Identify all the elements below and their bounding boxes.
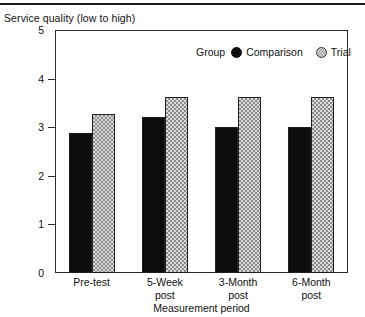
dotted-circle-icon	[316, 47, 327, 58]
bar-trial-5-week-post	[165, 97, 188, 273]
x-axis-category-label-line: post	[202, 289, 275, 302]
bars-layer	[55, 30, 348, 273]
legend-entry-comparison: Comparison	[231, 46, 303, 58]
x-axis-category-label: 5-Weekpost	[128, 276, 201, 301]
filled-circle-icon	[231, 47, 242, 58]
page-top-rule	[0, 3, 365, 5]
x-axis-category-label-line: 6-Month	[275, 276, 348, 289]
y-axis-tick-label: 0	[38, 268, 44, 279]
x-axis-category-label-line: 3-Month	[202, 276, 275, 289]
x-axis-category-label-line: Pre-test	[55, 276, 128, 289]
bar-trial-6-month-post	[311, 97, 334, 273]
chart-legend: Group Comparison Trial	[196, 46, 351, 58]
legend-label-trial: Trial	[331, 46, 351, 58]
y-axis-tick-label: 3	[38, 122, 44, 133]
bar-comparison-3-month-post	[215, 127, 238, 273]
bar-group	[128, 30, 201, 273]
bar-trial-3-month-post	[238, 97, 261, 273]
y-axis: 012345	[0, 30, 56, 273]
x-axis-category-label: 6-Monthpost	[275, 276, 348, 301]
chart-title: Service quality (low to high)	[4, 12, 135, 25]
bar-group	[55, 30, 128, 273]
x-axis-category-label-line: post	[275, 289, 348, 302]
y-axis-tick-label: 1	[38, 219, 44, 230]
y-axis-tick-label: 4	[38, 73, 44, 84]
x-axis-category-label-line: 5-Week	[128, 276, 201, 289]
y-axis-tick-label: 2	[38, 170, 44, 181]
x-axis-category-label-line: post	[128, 289, 201, 302]
x-axis-category-label: Pre-test	[55, 276, 128, 289]
legend-label-comparison: Comparison	[246, 46, 303, 58]
bar-trial-pre-test	[92, 114, 115, 273]
bar-comparison-5-week-post	[142, 117, 165, 273]
legend-entry-trial: Trial	[316, 46, 351, 58]
legend-title: Group	[196, 46, 225, 58]
bar-group	[202, 30, 275, 273]
chart-page: Service quality (low to high) 012345 Pre…	[0, 0, 365, 317]
x-axis-category-label: 3-Monthpost	[202, 276, 275, 301]
x-axis-title: Measurement period	[55, 302, 348, 314]
bar-comparison-6-month-post	[288, 127, 311, 273]
bar-group	[275, 30, 348, 273]
y-axis-tick-label: 5	[38, 25, 44, 36]
bar-comparison-pre-test	[69, 133, 92, 273]
